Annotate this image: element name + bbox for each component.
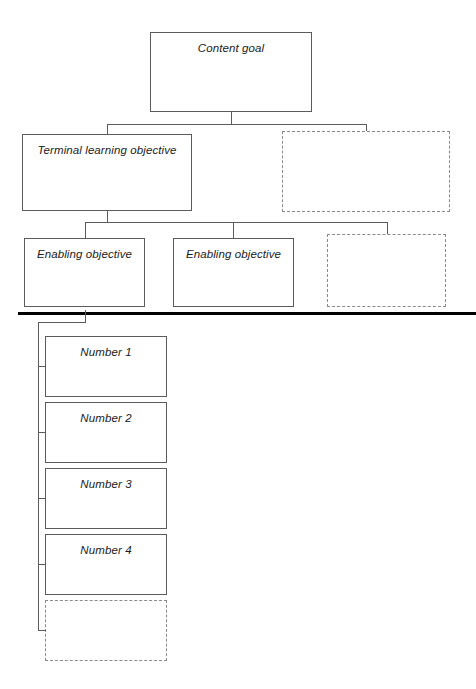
section-divider [18, 312, 476, 315]
connector-level3-bus [85, 222, 387, 223]
node-terminal-learning-objective[interactable]: Terminal learning objective [22, 134, 192, 211]
connector-spine-top-link [38, 322, 86, 323]
node-enabling-objective-1[interactable]: Enabling objective [24, 238, 145, 307]
node-number-2-label: Number 2 [46, 403, 166, 426]
node-number-2[interactable]: Number 2 [45, 402, 167, 463]
connector-goal-stem-down [231, 112, 232, 124]
connector-spine-top-riser [85, 310, 86, 322]
node-level4-placeholder-label [46, 601, 166, 610]
node-number-1[interactable]: Number 1 [45, 336, 167, 397]
node-number-3-label: Number 3 [46, 469, 166, 492]
node-level2-placeholder-label [283, 132, 449, 141]
node-level3-placeholder[interactable] [327, 234, 446, 307]
node-level2-placeholder[interactable] [282, 131, 450, 212]
node-number-4-label: Number 4 [46, 535, 166, 558]
node-level3-placeholder-label [328, 235, 445, 244]
node-number-1-label: Number 1 [46, 337, 166, 360]
connector-enabling-2-riser [233, 222, 234, 238]
node-terminal-learning-objective-label: Terminal learning objective [23, 135, 191, 158]
connector-terminal-stem-down [107, 211, 108, 222]
connector-stub-number-1 [38, 366, 46, 367]
node-level4-placeholder[interactable] [45, 600, 167, 661]
node-number-4[interactable]: Number 4 [45, 534, 167, 595]
connector-enabling-1-riser [85, 222, 86, 238]
connector-level2-placeholder-riser [366, 124, 367, 131]
diagram-canvas: Content goal Terminal learning objective… [0, 0, 476, 689]
connector-list-spine [38, 322, 39, 631]
node-content-goal-label: Content goal [151, 33, 311, 56]
connector-level2-bus [107, 124, 366, 125]
connector-stub-placeholder [38, 630, 46, 631]
node-content-goal[interactable]: Content goal [150, 32, 312, 112]
node-enabling-objective-1-label: Enabling objective [25, 239, 144, 262]
connector-stub-number-4 [38, 564, 46, 565]
node-number-3[interactable]: Number 3 [45, 468, 167, 529]
node-enabling-objective-2-label: Enabling objective [174, 239, 293, 262]
connector-level3-placeholder-riser [387, 222, 388, 234]
connector-stub-number-3 [38, 498, 46, 499]
node-enabling-objective-2[interactable]: Enabling objective [173, 238, 294, 307]
connector-stub-number-2 [38, 432, 46, 433]
connector-terminal-riser [107, 124, 108, 134]
